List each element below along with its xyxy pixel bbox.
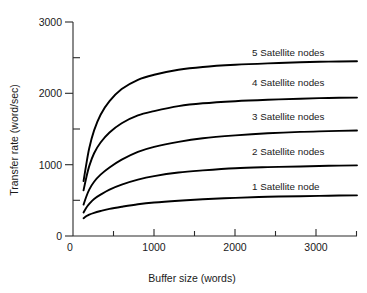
x-tick-label-1000: 1000 <box>142 241 166 253</box>
x-tick-label-3000: 3000 <box>304 241 328 253</box>
y-tick-label-0: 0 <box>56 230 62 242</box>
chart-figure: 3000 2000 1000 0 0 1000 2000 3000 Transf… <box>0 0 367 293</box>
x-tick-label-2000: 2000 <box>223 241 247 253</box>
line-chart-canvas: 3000 2000 1000 0 0 1000 2000 3000 Transf… <box>0 0 367 293</box>
y-tick-label-2000: 2000 <box>39 87 63 99</box>
series-label-2: 2 Satellite nodes <box>252 146 325 157</box>
series-label-5: 5 Satellite nodes <box>252 47 325 58</box>
y-tick-label-3000: 3000 <box>39 16 63 28</box>
series-label-1: 1 Satellite node <box>252 181 320 192</box>
y-tick-label-1000: 1000 <box>39 159 63 171</box>
series-label-3: 3 Satellite nodes <box>252 111 325 122</box>
series-label-4: 4 Satellite nodes <box>252 77 325 88</box>
x-axis-title: Buffer size (words) <box>148 272 235 284</box>
y-axis-title: Transfer rate (word/sec) <box>8 84 20 196</box>
x-tick-label-0: 0 <box>67 241 73 253</box>
